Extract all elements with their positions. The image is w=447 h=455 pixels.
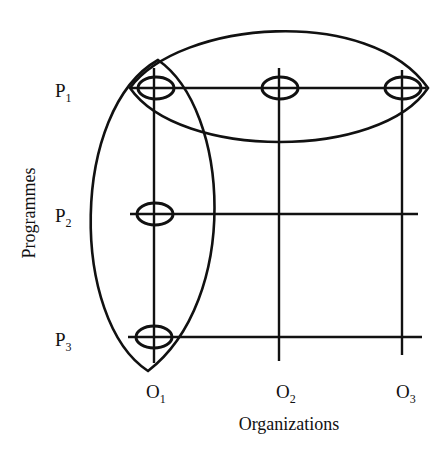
programme-organization-matrix-diagram: P1 P2 P3 O1 O2 O3 Organizations Programm… [0,0,447,455]
x-axis-title: Organizations [239,414,340,434]
programme-label-p3: P3 [55,329,72,354]
y-axis-title: Programmes [19,168,39,259]
programme-label-p2: P2 [55,205,72,230]
grouping-lens-o1 [91,60,215,371]
organization-label-o3: O3 [396,381,416,406]
organization-label-o1: O1 [146,381,166,406]
organization-label-o2: O2 [276,381,296,406]
programme-label-p1: P1 [55,80,72,105]
